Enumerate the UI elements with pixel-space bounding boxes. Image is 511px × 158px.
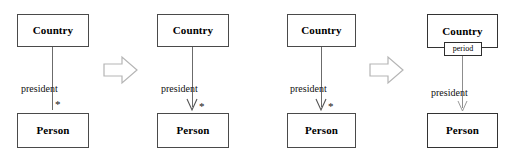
association-role-label: president [290, 84, 327, 94]
class-box-country[interactable]: Country [157, 14, 229, 47]
step-arrow-2 [369, 55, 405, 85]
diagram-canvas: Country president * Person Country presi… [0, 0, 511, 158]
class-box-country[interactable]: Country [17, 14, 89, 47]
class-name-label: Person [37, 125, 70, 136]
class-name-label: Person [305, 125, 338, 136]
diagram-panel-1: Country president * Person [0, 0, 110, 158]
association-class-name-label: period [453, 45, 473, 53]
class-box-person[interactable]: Person [157, 113, 229, 148]
navigability-arrowhead-icon [315, 98, 327, 111]
association-line [52, 47, 53, 110]
class-name-label: Country [442, 26, 482, 37]
association-role-label: president [161, 84, 198, 94]
diagram-panel-3: Country president * Person [270, 0, 380, 158]
class-name-label: Person [177, 125, 210, 136]
class-box-person[interactable]: Person [287, 113, 356, 148]
association-class-period[interactable]: period [444, 42, 482, 56]
multiplicity-label: * [55, 99, 61, 110]
class-box-person[interactable]: Person [17, 113, 89, 148]
step-arrow-1 [103, 55, 139, 85]
right-arrow-icon [103, 55, 139, 85]
class-name-label: Country [301, 25, 341, 36]
class-box-country[interactable]: Country [287, 14, 356, 47]
navigability-arrowhead-icon [457, 100, 469, 113]
diagram-panel-2: Country president * Person [140, 0, 250, 158]
association-role-label: president [21, 84, 58, 94]
multiplicity-label: * [199, 101, 205, 112]
right-arrow-icon [369, 55, 405, 85]
association-role-label: president [431, 88, 468, 98]
class-name-label: Country [33, 25, 73, 36]
class-box-person[interactable]: Person [427, 113, 498, 148]
class-name-label: Country [173, 25, 213, 36]
multiplicity-label: * [328, 101, 334, 112]
class-name-label: Person [446, 125, 479, 136]
navigability-arrowhead-icon [186, 98, 198, 111]
diagram-panel-4: Country period president Person [410, 0, 511, 158]
